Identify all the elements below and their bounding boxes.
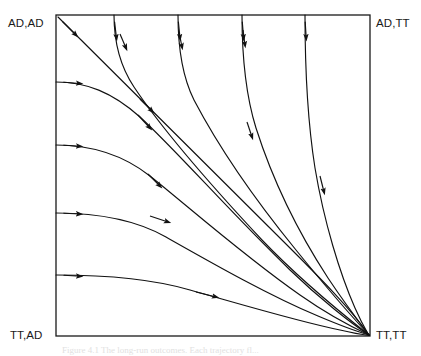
trajectory-top-edge-1 [114,15,369,335]
corner-label-bottom-left: TT,AD [10,330,42,342]
trajectory-left-edge-1-arrow [64,82,80,83]
flow-arrow-top-4-mid [320,176,324,192]
flow-arrow-top-1-mid [120,34,126,48]
flow-arrow-diagonal-mid [140,99,152,111]
trajectory-left-edge-3 [56,213,369,335]
trajectory-left-edge-3-arrow [64,213,80,214]
trajectory-left-edge-2-arrow [64,145,80,146]
phase-portrait-figure: AD,AD AD,TT TT,AD TT,TT Figure 4.1 The l… [0,0,421,356]
flow-arrow-group [120,30,324,297]
trajectory-top-edge-4 [305,15,369,336]
plot-frame [56,15,370,336]
flow-arrow-left-3-mid [150,216,168,222]
corner-label-top-left: AD,AD [8,18,44,30]
trajectory-group [56,15,369,336]
corner-label-top-right: AD,TT [376,18,410,30]
flow-arrow-top-3-lower [247,122,252,137]
figure-caption: Figure 4.1 The long-run outcomes. Each t… [62,345,362,356]
trajectory-diagonal-from-corner-arrow [63,22,76,35]
flow-arrow-left-4-mid [196,292,216,297]
flow-arrow-left-1-mid [138,115,150,128]
trajectory-left-edge-2 [56,145,369,335]
trajectory-diagonal-from-corner [58,17,369,335]
trajectory-left-edge-4 [56,275,369,336]
flow-arrow-left-2-mid [148,174,160,186]
phase-portrait-canvas [0,0,421,356]
corner-label-bottom-right: TT,TT [376,330,407,342]
